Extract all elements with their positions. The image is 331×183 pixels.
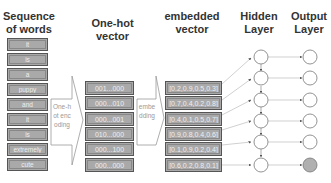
encoding-label: One-hot encoding	[52, 102, 72, 129]
hidden-node	[254, 71, 268, 85]
hidden-node	[254, 50, 268, 64]
output-node-highlighted	[303, 158, 317, 172]
hidden-node	[254, 135, 268, 149]
diagram-graphics	[0, 0, 331, 183]
embedding-label: embedding	[138, 102, 156, 120]
output-node	[303, 71, 317, 85]
hidden-node	[254, 93, 268, 107]
output-node	[303, 114, 317, 128]
output-node	[303, 50, 317, 64]
hidden-node	[254, 114, 268, 128]
hidden-node	[254, 158, 268, 172]
output-node	[303, 93, 317, 107]
output-node	[303, 135, 317, 149]
